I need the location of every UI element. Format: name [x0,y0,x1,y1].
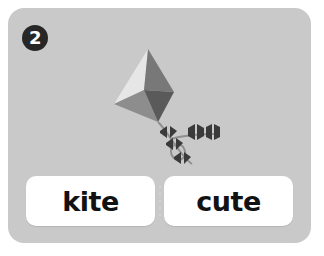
answer-choice-cute[interactable]: cute [164,176,293,226]
question-number-label: 2 [29,29,41,47]
worksheet-card: 2 [8,8,311,243]
divider-dot [159,193,161,195]
divider-dot [159,200,161,202]
answer-choice-cute-label: cute [196,188,260,215]
answer-choices: kite cute [26,176,293,226]
kite-panel-top-right [144,49,174,92]
kite-illustration [96,30,226,175]
divider-dot [159,207,161,209]
divider-dot [159,214,161,216]
divider-dot [159,186,161,188]
question-number-badge: 2 [22,25,48,51]
answer-choices-divider [155,176,164,226]
kite-tail-bows-branch [188,124,220,140]
answer-choice-kite[interactable]: kite [26,176,155,226]
answer-choice-kite-label: kite [62,188,118,215]
